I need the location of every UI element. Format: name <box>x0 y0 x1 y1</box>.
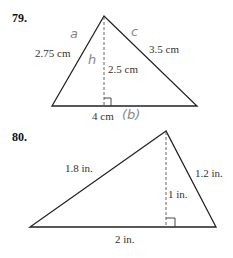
height-label: 2.5 cm <box>108 63 138 75</box>
side-label-left: 2.75 cm <box>35 47 71 59</box>
handwritten-c: c <box>131 24 138 39</box>
problem-number: 79. <box>12 11 27 25</box>
problem-79: 79. 2.75 cm 3.5 cm 2.5 cm 4 cm a c h (b) <box>12 11 197 122</box>
base-label: 4 cm <box>92 110 114 122</box>
handwritten-b: (b) <box>122 107 140 122</box>
right-angle-mark <box>166 218 175 227</box>
figure-canvas: 79. 2.75 cm 3.5 cm 2.5 cm 4 cm a c h (b)… <box>0 0 233 258</box>
side-label-right: 3.5 cm <box>149 43 179 55</box>
side-label-right: 1.2 in. <box>195 167 223 179</box>
handwritten-h: h <box>88 52 96 67</box>
problem-80: 80. 1.8 in. 1.2 in. 1 in. 2 in. <box>12 130 223 245</box>
triangle <box>30 131 216 227</box>
handwritten-a: a <box>70 26 78 41</box>
problem-number: 80. <box>12 130 27 144</box>
base-label: 2 in. <box>115 233 135 245</box>
right-angle-mark <box>104 98 111 106</box>
height-label: 1 in. <box>168 188 188 200</box>
side-label-left: 1.8 in. <box>65 162 93 174</box>
